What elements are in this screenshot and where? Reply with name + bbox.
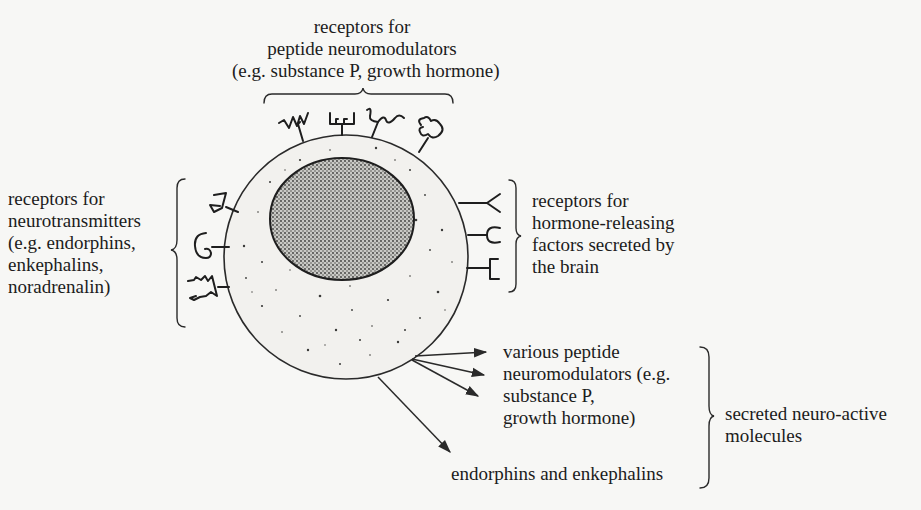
v-shaped-receptor-icon: [459, 194, 500, 212]
label-line: noradrenalin): [8, 276, 141, 298]
label-line: peptide neuromodulators: [232, 38, 492, 60]
secretion-arrow-2: [412, 359, 484, 375]
jagged-receptor-icon: [188, 276, 229, 300]
secreted-peptides-label: various peptide neuromodulators (e.g. su…: [503, 341, 670, 429]
c-shaped-receptor-icon: [468, 227, 500, 242]
label-line: hormone-releasing: [532, 212, 674, 234]
label-line: factors secreted by: [532, 234, 674, 256]
lobed-receptor-icon: [419, 117, 443, 152]
right-brace: [509, 180, 521, 292]
label-line: enkephalins,: [8, 254, 141, 276]
neuron-diagram: receptors for peptide neuromodulators (e…: [0, 0, 921, 510]
label-line: receptors for: [532, 190, 674, 212]
label-line: neurotransmitters: [8, 210, 141, 232]
label-line: growth hormone): [503, 407, 670, 429]
label-line: (e.g. substance P, growth hormone): [232, 60, 492, 82]
wave-receptor-icon: [367, 109, 404, 137]
label-line: receptors for: [8, 188, 141, 210]
nucleus: [270, 158, 414, 280]
comb-receptor-icon: [330, 113, 354, 135]
label-line: (e.g. endorphins,: [8, 232, 141, 254]
secretion-arrow-3: [412, 360, 478, 396]
label-line: various peptide: [503, 341, 670, 363]
left-brace: [171, 179, 185, 327]
bracket-receptor-icon: [467, 259, 499, 279]
top-receptor-label: receptors for peptide neuromodulators (e…: [232, 16, 492, 82]
right-receptor-label: receptors for hormone-releasing factors …: [532, 190, 674, 278]
secretion-arrow-1: [415, 352, 486, 356]
label-line: substance P,: [503, 385, 670, 407]
secretion-arrow-4: [378, 377, 450, 452]
label-line: endorphins and enkephalins: [451, 463, 663, 485]
label-line: molecules: [725, 425, 887, 447]
label-line: neuromodulators (e.g.: [503, 363, 670, 385]
label-line: the brain: [532, 256, 674, 278]
left-receptor-label: receptors for neurotransmitters (e.g. en…: [8, 188, 141, 298]
label-line: receptors for: [232, 16, 492, 38]
secreted-brace: [700, 347, 714, 488]
secreted-molecules-group-label: secreted neuro-active molecules: [725, 403, 887, 447]
top-brace: [264, 88, 453, 103]
label-line: secreted neuro-active: [725, 403, 887, 425]
secreted-endorphins-label: endorphins and enkephalins: [451, 463, 663, 485]
zigzag-receptor-icon: [279, 113, 308, 141]
